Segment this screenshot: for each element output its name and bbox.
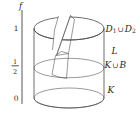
label-d2-subscript: 2 [132, 27, 136, 34]
label-d1: D [105, 24, 113, 34]
label-mid-level: K∪B [104, 60, 127, 70]
slit-gap [53, 15, 71, 55]
union-symbol-mid: ∪ [112, 61, 118, 70]
label-b: B [119, 60, 127, 70]
axis-label: f [18, 1, 24, 11]
label-d2: D [124, 24, 132, 34]
label-k-mid: K [104, 60, 113, 70]
cylinder-body [34, 29, 104, 109]
mid-level-ellipse [34, 58, 104, 77]
label-lateral: L [111, 46, 118, 56]
tick-one: 1 [14, 24, 19, 33]
figure-canvas: f 1 1 2 0 D1∪D2 L K∪B K [0, 0, 140, 117]
tick-zero: 0 [14, 94, 19, 103]
bottom-ellipse [34, 88, 104, 108]
label-bottom-region: K [107, 85, 116, 95]
slit-cut-face [52, 52, 69, 79]
label-d1-subscript: 1 [113, 27, 117, 34]
label-top-disks: D1∪D2 [105, 24, 137, 35]
union-symbol-top: ∪ [118, 25, 124, 34]
tick-half-denominator: 2 [13, 68, 17, 76]
level-set-cylinder-figure: f 1 1 2 0 D1∪D2 L K∪B K [0, 0, 140, 117]
tick-half-numerator: 1 [13, 58, 17, 66]
